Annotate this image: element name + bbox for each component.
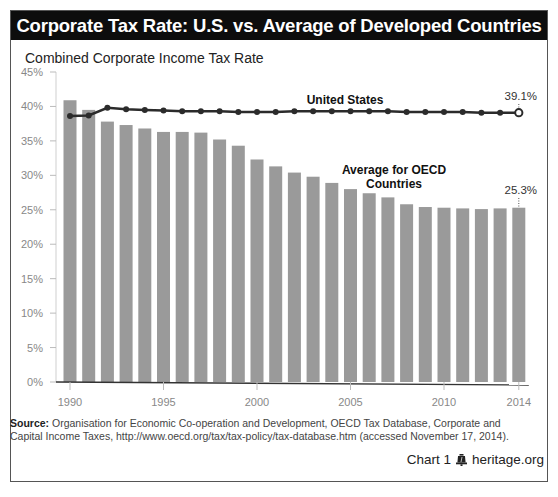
us-point: [273, 109, 279, 115]
oecd-bar: [288, 173, 301, 382]
us-point: [515, 109, 522, 116]
oecd-bar: [138, 128, 151, 382]
site-name: heritage.org: [472, 452, 544, 467]
x-tick-label: 2014: [507, 396, 531, 408]
us-point: [291, 108, 297, 114]
y-tick-label: 35%: [21, 135, 43, 147]
us-point: [198, 108, 204, 114]
y-tick-label: 15%: [21, 273, 43, 285]
oecd-bar: [269, 166, 282, 382]
source-note: Source: Organisation for Economic Co-ope…: [10, 417, 530, 443]
us-point: [179, 108, 185, 114]
y-tick-label: 30%: [21, 169, 43, 181]
x-tick-label: 1995: [151, 396, 175, 408]
source-label: Source:: [10, 417, 49, 429]
x-axis: [56, 382, 529, 385]
oecd-bar: [325, 183, 338, 382]
source-text: Organisation for Economic Co-operation a…: [10, 417, 509, 442]
oecd-bar: [381, 197, 394, 382]
oecd-bar: [176, 132, 189, 382]
oecd-bar: [400, 204, 413, 382]
oecd-bar: [64, 100, 77, 382]
oecd-bar: [232, 146, 245, 382]
oecd-series-label-line2: Countries: [366, 177, 422, 191]
oecd-bar: [363, 193, 376, 382]
oecd-bar: [456, 208, 469, 382]
x-tick-label: 2000: [245, 396, 269, 408]
oecd-bar: [494, 208, 507, 382]
chart-plot: 0%5%10%15%20%25%30%35%40%45%199019952000…: [0, 0, 558, 420]
us-point: [254, 109, 260, 115]
y-tick-label: 5%: [27, 342, 43, 354]
y-tick-label: 40%: [21, 100, 43, 112]
us-point: [422, 109, 428, 115]
x-tick-label: 2005: [338, 396, 362, 408]
chart-footer: Chart 1 heritage.org: [407, 452, 544, 467]
us-point: [460, 109, 466, 115]
oecd-series-label-line1: Average for OECD: [342, 163, 447, 177]
chart-number: Chart 1: [407, 452, 451, 467]
oecd-bar: [194, 133, 207, 382]
x-tick-label: 2010: [432, 396, 456, 408]
us-point: [123, 106, 129, 112]
y-tick-label: 25%: [21, 204, 43, 216]
us-end-value: 39.1%: [504, 90, 537, 102]
oecd-bar: [419, 207, 432, 382]
oecd-bar: [512, 208, 525, 382]
us-point: [142, 107, 148, 113]
us-point: [67, 113, 73, 119]
oecd-bar: [307, 177, 320, 382]
oecd-bar: [120, 125, 133, 382]
us-point: [104, 105, 110, 111]
us-point: [385, 108, 391, 114]
oecd-bar: [157, 132, 170, 382]
y-tick-label: 0%: [27, 376, 43, 388]
us-point: [310, 108, 316, 114]
oecd-bar: [344, 189, 357, 382]
us-series-label: United States: [307, 93, 384, 107]
us-point: [366, 108, 372, 114]
y-tick-label: 10%: [21, 307, 43, 319]
liberty-bell-icon: [456, 454, 467, 466]
us-point: [441, 109, 447, 115]
us-point: [161, 108, 167, 114]
y-tick-label: 20%: [21, 238, 43, 250]
us-point: [348, 108, 354, 114]
us-point: [329, 108, 335, 114]
oecd-bar: [475, 209, 488, 382]
y-tick-label: 45%: [21, 66, 43, 78]
us-point: [478, 110, 484, 116]
oecd-bar: [101, 122, 114, 382]
oecd-bar: [438, 208, 451, 382]
oecd-end-value: 25.3%: [504, 184, 537, 196]
oecd-bar: [82, 110, 95, 382]
us-point: [497, 110, 503, 116]
us-point: [235, 109, 241, 115]
oecd-bar: [213, 140, 226, 382]
us-point: [404, 109, 410, 115]
us-point: [86, 112, 92, 118]
oecd-bar: [251, 159, 264, 382]
x-tick-label: 1990: [58, 396, 82, 408]
us-point: [217, 108, 223, 114]
